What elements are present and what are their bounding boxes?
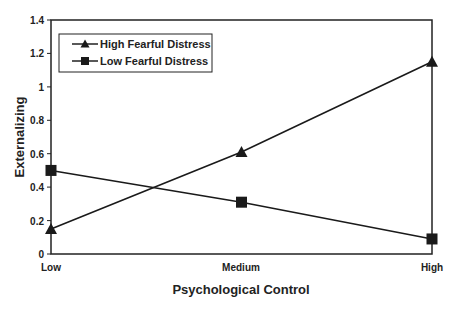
- x-tick-label: Low: [41, 262, 61, 273]
- y-axis-title: Externalizing: [12, 96, 27, 177]
- y-tick-label: 1.4: [30, 15, 44, 26]
- x-tick-label: Medium: [222, 262, 260, 273]
- y-tick-label: 0: [38, 249, 44, 260]
- legend-label-low-fearful: Low Fearful Distress: [100, 55, 208, 67]
- square-marker-icon: [81, 57, 89, 65]
- triangle-marker-icon: [45, 223, 57, 234]
- y-tick-label: 0.2: [30, 216, 44, 227]
- square-marker-icon: [46, 165, 57, 176]
- square-marker-icon: [427, 233, 438, 244]
- x-tick-label: High: [421, 262, 443, 273]
- y-tick-label: 0.4: [30, 182, 44, 193]
- triangle-marker-icon: [236, 146, 248, 157]
- y-tick-label: 0.6: [30, 149, 44, 160]
- series-low-fearful-distress: [46, 165, 438, 245]
- triangle-marker-icon: [426, 56, 438, 67]
- line-chart: 0 0.2 0.4 0.6 0.8 1 1.2 1.4 Externalizin…: [0, 0, 458, 310]
- y-axis: 0 0.2 0.4 0.6 0.8 1 1.2 1.4: [30, 15, 51, 260]
- square-marker-icon: [236, 197, 247, 208]
- x-axis: Low Medium High: [41, 262, 443, 273]
- y-tick-label: 1.2: [30, 48, 44, 59]
- y-tick-label: 1: [38, 82, 44, 93]
- y-tick-label: 0.8: [30, 115, 44, 126]
- x-axis-title: Psychological Control: [172, 282, 309, 297]
- series-layer: [45, 56, 438, 245]
- legend-label-high-fearful: High Fearful Distress: [100, 38, 211, 50]
- legend: High Fearful Distress Low Fearful Distre…: [59, 34, 212, 72]
